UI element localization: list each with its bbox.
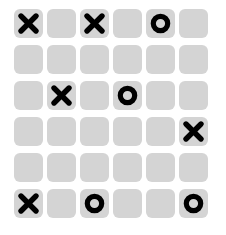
cell-tile xyxy=(146,189,175,218)
cell-r2c2[interactable] xyxy=(46,42,77,77)
cell-tile xyxy=(113,189,142,218)
x-mark-icon xyxy=(80,9,109,38)
cell-r5c1[interactable] xyxy=(13,150,44,185)
cell-r1c5[interactable] xyxy=(145,6,176,41)
o-mark-icon xyxy=(113,81,142,110)
cell-tile xyxy=(80,153,109,182)
cell-r5c5[interactable] xyxy=(145,150,176,185)
cell-r4c1[interactable] xyxy=(13,114,44,149)
x-mark-icon xyxy=(14,9,43,38)
cell-r6c1[interactable] xyxy=(13,186,44,221)
cell-r1c6[interactable] xyxy=(178,6,209,41)
cell-r4c4[interactable] xyxy=(112,114,143,149)
o-mark-icon xyxy=(146,9,175,38)
cell-r5c2[interactable] xyxy=(46,150,77,185)
cell-tile xyxy=(80,117,109,146)
cell-tile xyxy=(179,81,208,110)
cell-tile xyxy=(179,45,208,74)
cell-r6c4[interactable] xyxy=(112,186,143,221)
cell-tile xyxy=(113,153,142,182)
cell-r1c3[interactable] xyxy=(79,6,110,41)
cell-r1c4[interactable] xyxy=(112,6,143,41)
cell-tile xyxy=(179,9,208,38)
cell-tile xyxy=(146,81,175,110)
cell-r4c6[interactable] xyxy=(178,114,209,149)
cell-r1c2[interactable] xyxy=(46,6,77,41)
cell-r3c2[interactable] xyxy=(46,78,77,113)
cell-r2c3[interactable] xyxy=(79,42,110,77)
cell-r4c3[interactable] xyxy=(79,114,110,149)
cell-r6c2[interactable] xyxy=(46,186,77,221)
cell-tile xyxy=(146,45,175,74)
cell-tile xyxy=(146,153,175,182)
cell-tile xyxy=(80,45,109,74)
cell-tile xyxy=(47,189,76,218)
cell-tile xyxy=(14,45,43,74)
cell-tile xyxy=(113,45,142,74)
cell-r4c5[interactable] xyxy=(145,114,176,149)
x-mark-icon xyxy=(47,81,76,110)
cell-tile xyxy=(47,45,76,74)
cell-tile xyxy=(14,153,43,182)
cell-r3c6[interactable] xyxy=(178,78,209,113)
cell-r3c4[interactable] xyxy=(112,78,143,113)
game-board-container xyxy=(0,0,226,235)
cell-r6c5[interactable] xyxy=(145,186,176,221)
cell-r2c4[interactable] xyxy=(112,42,143,77)
cell-r6c3[interactable] xyxy=(79,186,110,221)
cell-tile xyxy=(179,153,208,182)
x-mark-icon xyxy=(14,189,43,218)
cell-r2c1[interactable] xyxy=(13,42,44,77)
cell-r5c6[interactable] xyxy=(178,150,209,185)
cell-tile xyxy=(47,117,76,146)
o-mark-icon xyxy=(179,189,208,218)
cell-tile xyxy=(113,117,142,146)
cell-r4c2[interactable] xyxy=(46,114,77,149)
cell-tile xyxy=(14,117,43,146)
cell-r3c3[interactable] xyxy=(79,78,110,113)
cell-tile xyxy=(80,81,109,110)
cell-r5c3[interactable] xyxy=(79,150,110,185)
cell-r5c4[interactable] xyxy=(112,150,143,185)
cell-r2c5[interactable] xyxy=(145,42,176,77)
cell-tile xyxy=(146,117,175,146)
cell-r1c1[interactable] xyxy=(13,6,44,41)
cell-tile xyxy=(47,153,76,182)
o-mark-icon xyxy=(80,189,109,218)
cell-tile xyxy=(113,9,142,38)
cell-tile xyxy=(47,9,76,38)
cell-r2c6[interactable] xyxy=(178,42,209,77)
cell-tile xyxy=(14,81,43,110)
tic-tac-toe-grid xyxy=(13,6,209,221)
cell-r3c1[interactable] xyxy=(13,78,44,113)
cell-r3c5[interactable] xyxy=(145,78,176,113)
x-mark-icon xyxy=(179,117,208,146)
cell-r6c6[interactable] xyxy=(178,186,209,221)
